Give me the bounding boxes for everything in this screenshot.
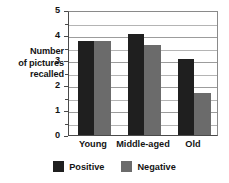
bar-chart: Number of pictures recalled 012345 Young…: [0, 0, 229, 183]
y-axis-tick: [65, 99, 68, 100]
legend-item-negative: Negative: [121, 161, 175, 172]
legend-swatch-positive: [53, 161, 64, 172]
legend-item-positive: Positive: [53, 161, 104, 172]
bar-middle-aged-positive: [128, 34, 145, 135]
y-axis-tick: [64, 136, 69, 137]
legend: Positive Negative: [0, 161, 229, 172]
y-axis-tick: [64, 61, 69, 62]
y-axis-tick-label: 1: [44, 106, 60, 115]
y-axis-tick: [64, 11, 69, 12]
y-axis-tick: [65, 49, 68, 50]
legend-swatch-negative: [121, 161, 132, 172]
y-axis-tick-label: 4: [44, 31, 60, 40]
y-axis-tick-label: 5: [44, 6, 60, 15]
y-axis-tick: [65, 74, 68, 75]
legend-label-positive: Positive: [69, 162, 104, 172]
y-axis-tick: [64, 86, 69, 87]
x-axis-label-old: Old: [153, 139, 229, 149]
y-axis-tick: [65, 24, 68, 25]
bar-young-positive: [78, 41, 95, 135]
legend-label-negative: Negative: [137, 162, 175, 172]
plot-area: [68, 11, 218, 136]
bar-middle-aged-negative: [144, 45, 161, 135]
bar-young-negative: [94, 41, 111, 136]
bars-layer: [69, 12, 217, 135]
y-axis-tick-label: 3: [44, 56, 60, 65]
bar-old-positive: [178, 59, 195, 135]
y-axis-tick: [65, 124, 68, 125]
y-axis-tick: [64, 111, 69, 112]
y-axis-tick: [64, 36, 69, 37]
y-axis-title-line-3: recalled: [2, 69, 64, 81]
y-axis-tick-label: 2: [44, 81, 60, 90]
bar-old-negative: [194, 93, 211, 136]
